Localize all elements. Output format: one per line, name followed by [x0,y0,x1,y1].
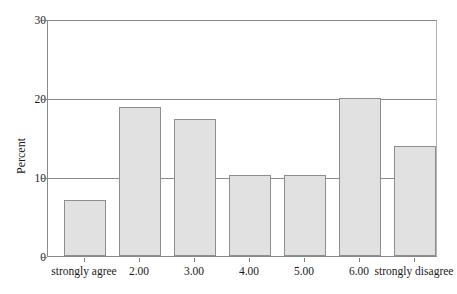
x-tick-label-4: 4.00 [219,264,279,278]
x-tick-label-5: 5.00 [274,264,334,278]
bar-strongly-agree [64,200,106,256]
x-tick-mark-1 [84,258,85,262]
x-tick-mark-7 [414,258,415,262]
x-tick-mark-6 [359,258,360,262]
bar-6 [339,98,381,256]
bar-2 [119,107,161,256]
y-axis-title: Percent [12,116,30,196]
x-tick-mark-5 [304,258,305,262]
y-tick-mark-0 [42,257,47,258]
x-tick-mark-4 [249,258,250,262]
plot-area [47,20,437,257]
bar-3 [174,119,216,256]
bar-chart-figure: Percent 30 20 10 0 strongly agree 2.00 3… [0,0,457,294]
x-tick-label-strongly-disagree: strongly disagree [354,264,457,278]
x-tick-mark-2 [139,258,140,262]
bar-5 [284,175,326,256]
bar-strongly-disagree [394,146,436,256]
x-tick-label-2: 2.00 [109,264,169,278]
bar-4 [229,175,271,256]
x-tick-mark-3 [194,258,195,262]
x-tick-label-3: 3.00 [164,264,224,278]
